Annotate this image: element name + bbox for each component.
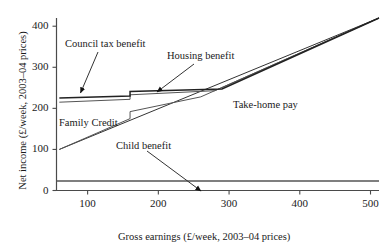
leader-council-tax-benefit: [81, 52, 99, 93]
chart-container: Net income (£/week, 2003–04 prices) Gros…: [0, 0, 389, 251]
y-tick-label: 400: [11, 19, 49, 31]
annotation-council-tax-benefit: Council tax benefit: [65, 38, 145, 49]
y-tick-label: 300: [11, 60, 49, 72]
x-axis-title: Gross earnings (£/week, 2003–04 prices): [118, 231, 290, 242]
x-tick-marks: [88, 191, 371, 195]
x-tick-label: 100: [68, 197, 108, 209]
leader-child-benefit: [147, 151, 201, 191]
y-tick-label: 200: [11, 101, 49, 113]
y-tick-label: 0: [11, 184, 49, 196]
y-tick-label: 100: [11, 142, 49, 154]
x-tick-label: 200: [138, 197, 178, 209]
annotation-child-benefit: Child benefit: [116, 140, 171, 151]
x-tick-label: 400: [280, 197, 320, 209]
annotation-family-credit: Family Credit: [59, 117, 118, 128]
annotation-housing-benefit: Housing benefit: [167, 50, 234, 61]
x-tick-label: 300: [209, 197, 249, 209]
leader-housing-benefit: [157, 64, 194, 92]
annotation-take-home-pay: Take-home pay: [233, 99, 298, 110]
x-tick-label: 500: [351, 197, 389, 209]
